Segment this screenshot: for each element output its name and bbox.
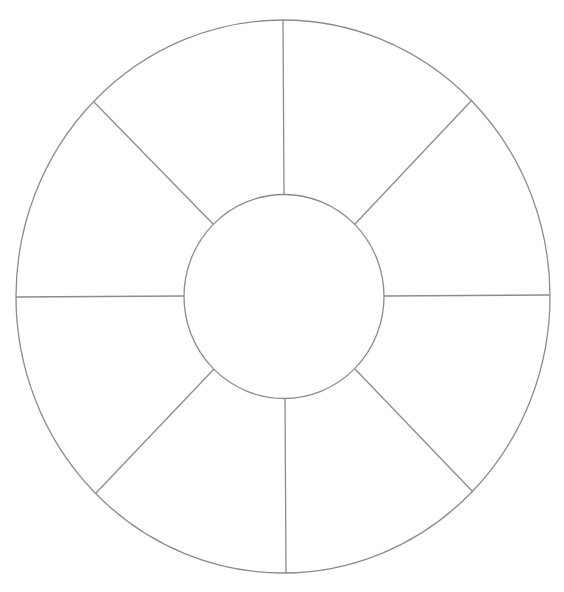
spoke-top [283, 20, 284, 195]
inner-circle [184, 195, 384, 399]
spoke-upper-left [94, 102, 213, 224]
spoke-right [384, 295, 550, 296]
spoke-lower-right [355, 369, 473, 492]
segmented-wheel-diagram [0, 0, 564, 592]
spoke-upper-right [355, 100, 472, 224]
spoke-bottom [285, 399, 286, 574]
spoke-left [16, 296, 184, 297]
spoke-lower-left [96, 369, 214, 493]
